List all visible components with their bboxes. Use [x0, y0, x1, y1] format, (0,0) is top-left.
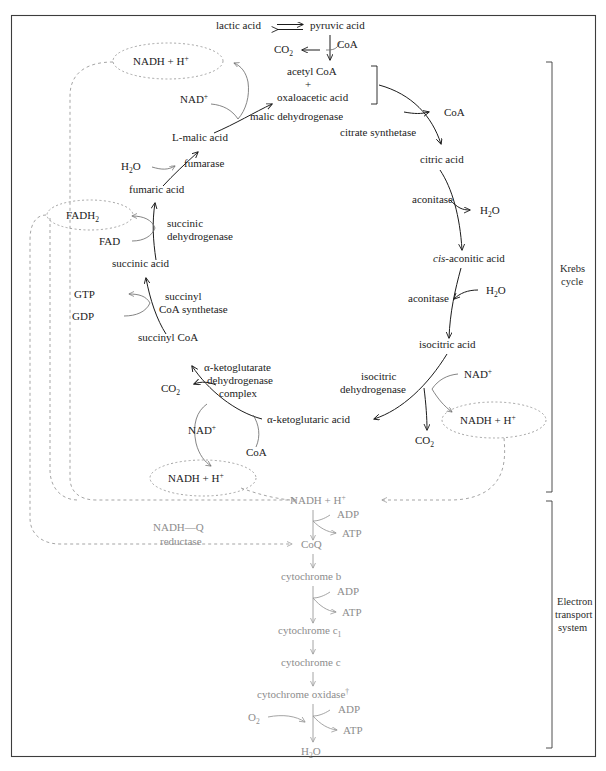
hook-coa-in-alphakg [253, 415, 259, 447]
arrow-h2o-release-aconitase1 [450, 200, 470, 210]
label-cytochrome-c1: cytochrome c1 [278, 624, 342, 639]
label-coa-pyruvate: CoA [337, 38, 358, 50]
arrow-fadh2-out [132, 216, 155, 228]
label-oxygen: O2 [248, 711, 260, 726]
arrow-atp-out-3 [313, 716, 337, 730]
label-h2o-fumarase: H2O [121, 160, 141, 175]
hook-adp-in-2 [313, 592, 330, 598]
label-coq: CoQ [301, 538, 322, 550]
label-krebs-cycle-l1: Krebs [560, 263, 585, 274]
hook-adp-in-1 [313, 515, 330, 521]
label-succinyl-coa-synthetase-l1: succinyl [165, 290, 202, 302]
label-co2-isocitric: CO2 [415, 434, 434, 449]
label-cytochrome-c: cytochrome c [281, 656, 341, 668]
dashed-route-nadh-alphakg-to-ets [241, 488, 290, 500]
dashed-route-nadh-malic-to-ets [70, 62, 296, 500]
arrow-co2-release-isocitric [424, 388, 427, 430]
label-alphakg-complex-l2: dehydrogenase [207, 374, 273, 386]
bracket-krebs-cycle [546, 62, 552, 492]
label-water-product: H2O [301, 745, 321, 760]
label-atp-3: ATP [343, 724, 363, 736]
label-nad-plus-isocitric: NAD+ [464, 367, 492, 380]
label-nad-plus-alphakg: NAD+ [188, 423, 216, 436]
arrow-cisaconitic-to-isocitric [449, 268, 461, 338]
label-alpha-ketoglutaric-acid: α-ketoglutaric acid [267, 413, 351, 425]
label-fumaric-acid: fumaric acid [129, 183, 185, 195]
label-fumarase: fumarase [184, 157, 224, 169]
label-cytochrome-b: cytochrome b [281, 570, 342, 582]
label-citric-acid: citric acid [420, 153, 464, 165]
label-oxaloacetic-acid: oxaloacetic acid [277, 91, 349, 103]
label-nadh-q-reductase-l1: NADH—Q [153, 521, 204, 533]
label-cis-aconitic-acid: cis-aconitic acid [433, 252, 505, 264]
arrow-oxygen-in [268, 716, 305, 722]
label-l-malic-acid: L-malic acid [172, 131, 228, 143]
arrow-atp-out-1 [313, 521, 336, 533]
label-adp-1: ADP [337, 508, 359, 520]
label-fad: FAD [99, 235, 120, 247]
arrow-nadh-out-isocitric [432, 389, 452, 412]
label-nadh-h-isocitric: NADH + H+ [460, 413, 516, 426]
dashed-route-nadh-isocitric-to-ets [382, 438, 505, 500]
bracket-condensation [371, 66, 377, 104]
label-co2-alphakg: CO2 [161, 382, 180, 397]
label-cytochrome-oxidase: cytochrome oxidase† [257, 687, 349, 700]
label-succinic-dehydrogenase-l2: dehydrogenase [167, 230, 233, 242]
label-atp-1: ATP [342, 527, 362, 539]
label-succinic-dehydrogenase-l1: succinic [167, 217, 203, 229]
label-lactic-acid: lactic acid [216, 19, 261, 31]
label-gdp: GDP [72, 310, 94, 322]
label-succinic-acid: succinic acid [112, 257, 170, 269]
label-co2-pyruvate: CO2 [274, 43, 293, 58]
equilibrium-arrow-icon [277, 25, 303, 30]
label-isocitric-dehydrogenase-l1: isocitric [361, 370, 397, 382]
hook-adp-in-3 [313, 710, 330, 716]
label-acetyl-coa: acetyl CoA [287, 65, 337, 77]
bracket-electron-transport-system [546, 501, 552, 748]
label-h2o-aconitase2: H2O [486, 284, 506, 299]
label-nadh-h-malic: NADH + H+ [133, 54, 189, 67]
arrow-h2o-in-fumarase [152, 166, 175, 169]
label-succinyl-coa: succinyl CoA [138, 331, 198, 343]
label-krebs-cycle-l2: cycle [561, 276, 583, 287]
arrow-gtp-out [129, 294, 150, 303]
hook-gdp-in [124, 303, 150, 316]
arrow-atp-out-2 [313, 598, 336, 612]
label-ets-l2: transport [555, 609, 592, 620]
label-nadh-q-reductase-l2: reductase [160, 535, 202, 547]
dashed-route-left-spur [50, 218, 78, 500]
label-coa-released: CoA [444, 106, 465, 118]
label-h2o-aconitase1: H2O [480, 204, 500, 219]
label-coa-in-alphakg: CoA [246, 446, 267, 458]
hook-nad-in-isocitric [432, 374, 458, 389]
label-pyruvic-acid: pyruvic acid [310, 19, 365, 31]
label-malic-dehydrogenase: malic dehydrogenase [250, 110, 343, 122]
label-adp-2: ADP [337, 585, 359, 597]
hook-nad-in-malic [211, 104, 238, 119]
label-nadh-h-ets: NADH + H+ [290, 493, 346, 506]
label-nadh-h-alphakg: NADH + H+ [168, 471, 224, 484]
label-adp-3: ADP [338, 703, 360, 715]
label-atp-2: ATP [342, 606, 362, 618]
arrow-nadh-out-malic [234, 63, 249, 119]
label-ets-l3: system [558, 622, 587, 633]
label-fadh2: FADH2 [66, 209, 99, 224]
label-succinyl-coa-synthetase-l2: CoA synthetase [159, 303, 228, 315]
arrow-h2o-in-aconitase2 [454, 290, 478, 299]
label-plus-sign: + [305, 78, 311, 90]
label-aconitase-2: aconitase [408, 292, 449, 304]
label-aconitase-1: aconitase [412, 193, 453, 205]
metabolic-pathway-diagram: lactic acid pyruvic acid CO2 CoA acetyl … [0, 0, 606, 771]
hook-fad-in [132, 228, 155, 241]
arrow-citric-to-cisaconitic [440, 170, 462, 250]
figure-border [12, 16, 596, 757]
label-isocitric-acid: isocitric acid [419, 338, 476, 350]
label-gtp: GTP [74, 288, 95, 300]
label-nad-plus-malic: NAD+ [180, 92, 208, 105]
label-alphakg-complex-l3: complex [219, 387, 257, 399]
label-isocitric-dehydrogenase-l2: dehydrogenase [340, 383, 406, 395]
label-citrate-synthetase: citrate synthetase [340, 126, 416, 138]
figure-canvas: lactic acid pyruvic acid CO2 CoA acetyl … [0, 0, 606, 771]
label-alphakg-complex-l1: α-ketoglutarate [204, 361, 271, 373]
label-ets-l1: Electron [557, 596, 593, 607]
